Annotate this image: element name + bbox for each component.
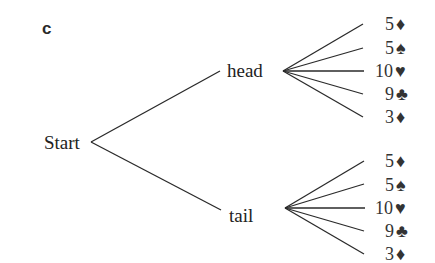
outcome-head-4: 9♣ <box>385 84 408 104</box>
outcome-head-5: 3♦ <box>385 107 405 127</box>
outcome-head-2: 5♠ <box>385 38 406 58</box>
root-node-start: Start <box>44 132 81 153</box>
diamond-icon: ♦ <box>396 244 405 263</box>
edge-head-outcome-4 <box>283 71 363 94</box>
heart-icon: ♥ <box>395 198 406 218</box>
tail-fan <box>285 161 365 254</box>
edge-tail-outcome-4 <box>285 208 364 231</box>
branch-node-head: head <box>227 60 263 81</box>
edge-head-outcome-2 <box>283 48 363 71</box>
head-fan <box>283 24 364 117</box>
part-label: c <box>42 19 51 38</box>
club-icon: ♣ <box>396 84 408 104</box>
branch-node-tail: tail <box>229 205 253 226</box>
spade-icon: ♠ <box>396 175 406 195</box>
edge-tail-outcome-2 <box>285 184 364 208</box>
diamond-icon: ♦ <box>396 151 405 171</box>
diamond-icon: ♦ <box>396 107 405 127</box>
outcome-head-3: 10♥ <box>375 61 406 81</box>
edge-start-head <box>91 71 220 142</box>
edge-tail-outcome-1 <box>285 161 364 208</box>
outcome-head-1: 5♦ <box>385 14 405 34</box>
tree-diagram-canvas: c Start head 5♦ 5♠ 10♥ 9♣ 3♦ tail <box>0 0 435 263</box>
outcome-tail-4: 9♣ <box>385 221 408 241</box>
outcome-tail-5: 3♦ <box>385 244 405 263</box>
spade-icon: ♠ <box>396 38 406 58</box>
head-outcomes: 5♦ 5♠ 10♥ 9♣ 3♦ <box>375 14 408 127</box>
diamond-icon: ♦ <box>396 14 405 34</box>
edge-tail-outcome-5 <box>285 208 364 254</box>
tree-diagram: c Start head 5♦ 5♠ 10♥ 9♣ 3♦ tail <box>0 0 435 263</box>
edge-head-outcome-1 <box>283 24 363 71</box>
edge-head-outcome-5 <box>283 71 363 117</box>
outcome-tail-1: 5♦ <box>385 151 405 171</box>
tail-outcomes: 5♦ 5♠ 10♥ 9♣ 3♦ <box>375 151 408 263</box>
edge-start-tail <box>91 142 221 210</box>
club-icon: ♣ <box>396 221 408 241</box>
outcome-tail-2: 5♠ <box>385 175 406 195</box>
outcome-tail-3: 10♥ <box>375 198 406 218</box>
heart-icon: ♥ <box>395 61 406 81</box>
